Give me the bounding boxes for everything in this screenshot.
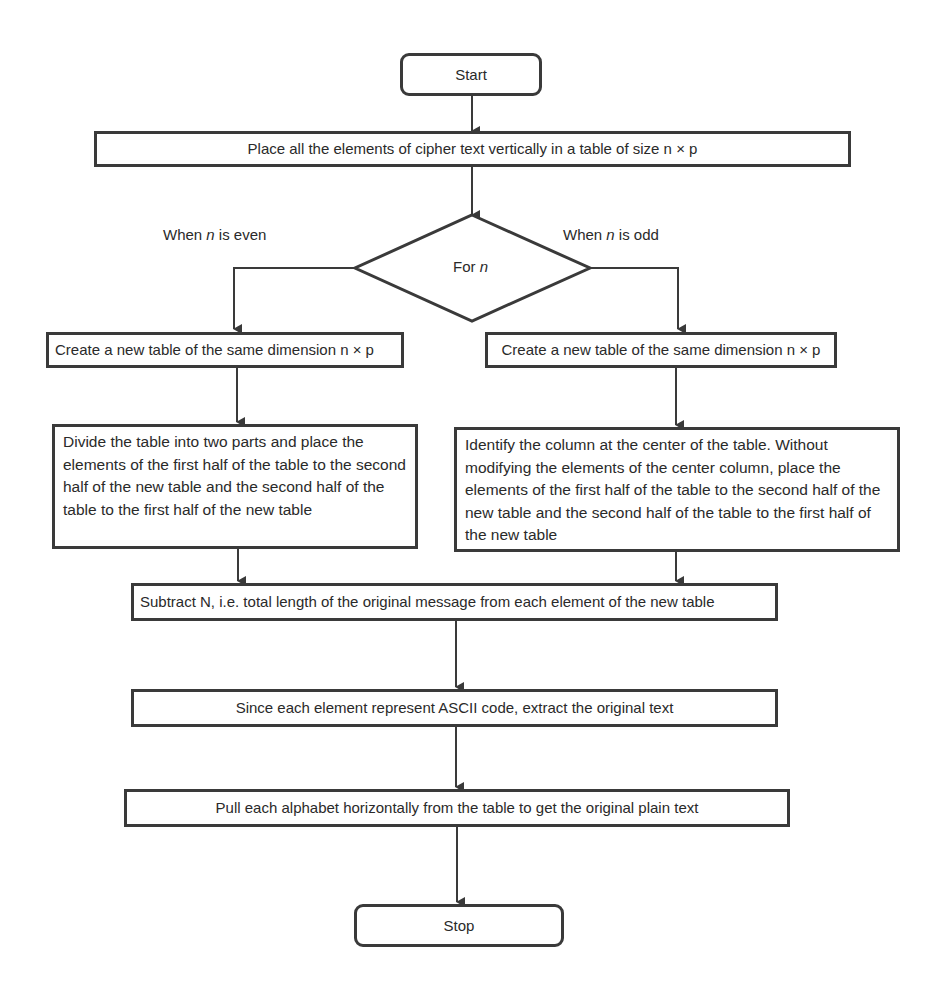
step-ascii-text: Since each element represent ASCII code,… (236, 698, 674, 718)
stop-label: Stop (444, 916, 475, 936)
decision-label: For n (453, 258, 488, 275)
step-even-divide: Divide the table into two parts and plac… (52, 424, 418, 549)
stop-terminal: Stop (354, 904, 564, 947)
arrow-decision-to-even (234, 268, 355, 329)
step-extract-ascii: Since each element represent ASCII code,… (131, 689, 778, 727)
step-odd-identify-center: Identify the column at the center of the… (454, 427, 900, 552)
step-subtract-n: Subtract N, i.e. total length of the ori… (131, 583, 778, 621)
step-even-create-table: Create a new table of the same dimension… (46, 332, 404, 368)
step-place-cipher: Place all the elements of cipher text ve… (94, 131, 851, 167)
step-even-divide-text: Divide the table into two parts and plac… (63, 433, 406, 518)
step-place-text: Place all the elements of cipher text ve… (248, 139, 698, 159)
step-odd-identify-text: Identify the column at the center of the… (465, 436, 880, 543)
start-label: Start (455, 65, 487, 85)
branch-even-label: When n is even (163, 226, 266, 243)
step-pull-plaintext: Pull each alphabet horizontally from the… (124, 789, 790, 827)
start-terminal: Start (400, 53, 542, 96)
branch-odd-label: When n is odd (563, 226, 659, 243)
step-subtract-text: Subtract N, i.e. total length of the ori… (140, 592, 715, 612)
arrow-decision-to-odd (590, 268, 678, 329)
step-pull-text: Pull each alphabet horizontally from the… (216, 798, 699, 818)
step-even-create-text: Create a new table of the same dimension… (55, 340, 374, 360)
step-odd-create-text: Create a new table of the same dimension… (502, 340, 821, 360)
step-odd-create-table: Create a new table of the same dimension… (485, 332, 837, 368)
